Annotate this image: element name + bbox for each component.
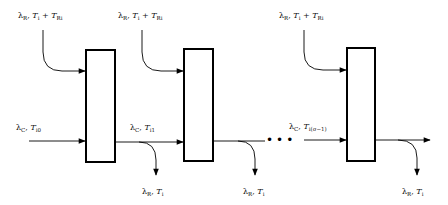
top-input-label-n: λR, Ti + TRi	[279, 12, 323, 22]
diagram-graphics	[0, 0, 448, 205]
bottom-output-arrow-1	[139, 142, 156, 175]
top-input-arrow-n	[304, 30, 346, 70]
chain-label-1: λC, Ti1	[130, 124, 155, 134]
top-input-arrow-2	[142, 30, 183, 71]
bottom-output-label-n: λR, Ti	[402, 188, 423, 198]
stage-box-n	[347, 48, 375, 161]
top-input-arrow-1	[43, 30, 85, 71]
bottom-output-label-2: λR, Ti	[243, 188, 264, 198]
top-input-label-2: λR, Ti + TRi	[118, 12, 162, 22]
bottom-output-arrow-n	[398, 140, 417, 175]
cascade-diagram: λR, Ti + TRi λR, Ti + TRi λR, Ti + TRi λ…	[0, 0, 448, 205]
chain-label-sigma: λC, Ti(σ−1)	[289, 123, 327, 133]
top-input-label-1: λR, Ti + TRi	[18, 12, 62, 22]
ellipsis-dots: •••	[266, 134, 296, 146]
bottom-output-arrow-2	[238, 141, 255, 175]
chain-label-0: λC, Ti0	[16, 124, 41, 134]
bottom-output-label-1: λR, Ti	[142, 188, 163, 198]
stage-box-1	[86, 50, 115, 162]
stage-box-2	[184, 49, 213, 161]
